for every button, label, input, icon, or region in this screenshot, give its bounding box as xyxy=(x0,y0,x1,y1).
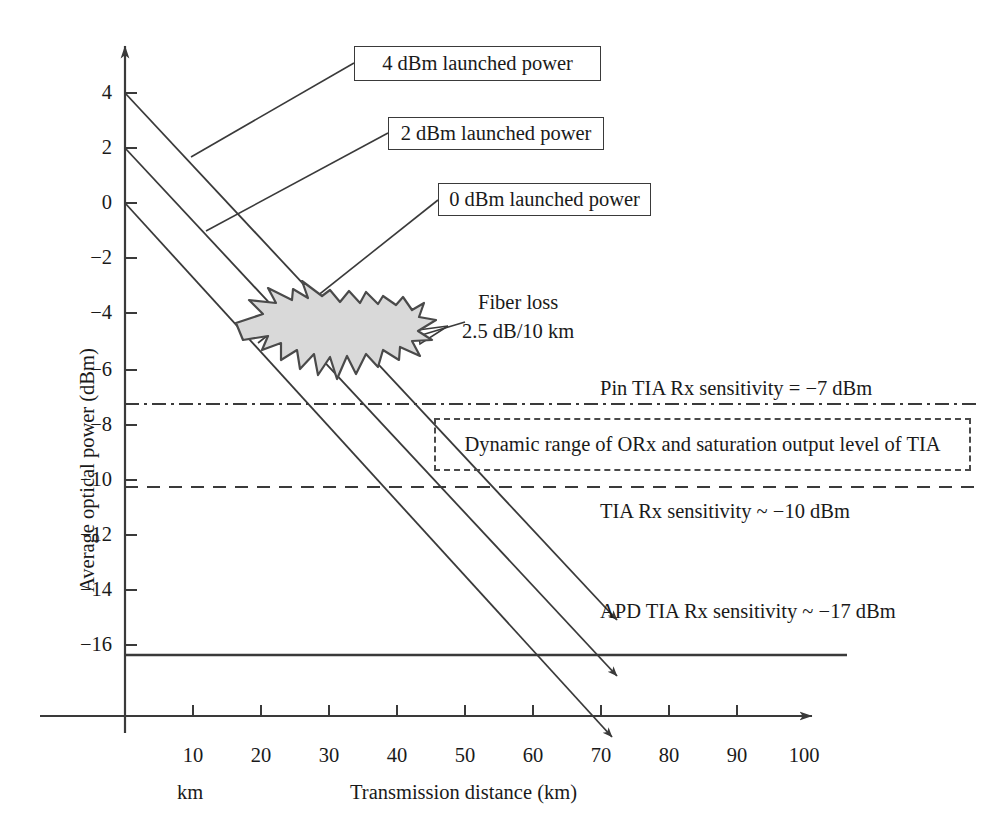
callout-2dbm-launched-power[interactable]: 2 dBm launched power xyxy=(388,117,604,150)
y-tick-label: 2 xyxy=(46,136,112,159)
callout-4dbm-launched-power[interactable]: 4 dBm launched power xyxy=(354,46,601,81)
tia-sensitivity-label: TIA Rx sensitivity ~ −10 dBm xyxy=(600,500,850,523)
leader-line-2dbm xyxy=(206,133,388,231)
x-axis xyxy=(40,705,812,716)
x-tick-label: 70 xyxy=(571,744,631,767)
fiber-loss-burst-icon xyxy=(236,281,436,379)
x-tick-label: 80 xyxy=(639,744,699,767)
x-tick-label: 50 xyxy=(435,744,495,767)
x-tick-label: 60 xyxy=(503,744,563,767)
x-axis-unit-note: km xyxy=(177,781,203,804)
y-axis-title: Average optical power (dBm) xyxy=(76,348,99,592)
y-tick-label: −10 xyxy=(36,468,112,491)
y-tick-label: 4 xyxy=(46,81,112,104)
leader-line-4dbm xyxy=(191,63,354,157)
slope-2dbm xyxy=(125,148,617,676)
x-tick-label: 20 xyxy=(231,744,291,767)
y-tick-label: −12 xyxy=(36,523,112,546)
y-tick-label: −2 xyxy=(46,246,112,269)
x-tick-label: 40 xyxy=(367,744,427,767)
y-tick-label: −14 xyxy=(36,578,112,601)
x-tick-label: 90 xyxy=(707,744,767,767)
fiber-loss-label-line2: 2.5 dB/10 km xyxy=(462,320,574,343)
fiber-loss-label-line1: Fiber loss xyxy=(478,291,558,314)
apd-sensitivity-label: APD TIA Rx sensitivity ~ −17 dBm xyxy=(600,600,896,623)
pin-tia-sensitivity-label: Pin TIA Rx sensitivity = −7 dBm xyxy=(600,377,872,400)
x-axis-title: Transmission distance (km) xyxy=(350,781,577,804)
x-tick-label: 100 xyxy=(772,744,836,767)
dynamic-range-box: Dynamic range of ORx and saturation outp… xyxy=(434,418,971,471)
y-tick-label: −4 xyxy=(46,301,112,324)
y-tick-label: 0 xyxy=(46,191,112,214)
x-tick-label: 10 xyxy=(163,744,223,767)
x-tick-label: 30 xyxy=(299,744,359,767)
callout-0dbm-launched-power[interactable]: 0 dBm launched power xyxy=(438,183,651,216)
y-tick-label: −16 xyxy=(36,633,112,656)
